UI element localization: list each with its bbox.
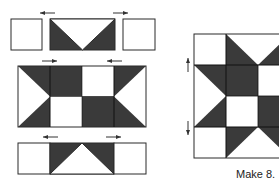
top-left-square xyxy=(11,19,42,50)
top-right-square xyxy=(123,19,155,50)
quilt-block-diagram xyxy=(0,0,279,190)
four-patch-dark xyxy=(82,97,114,128)
bottom-right-square xyxy=(114,143,146,174)
top-row xyxy=(11,13,155,50)
bottom-row xyxy=(18,137,146,174)
top-flying-geese xyxy=(50,19,115,50)
four-patch-light xyxy=(50,97,82,128)
four-patch-light xyxy=(82,66,114,97)
finished-block xyxy=(188,34,279,158)
middle-left-geese xyxy=(18,66,50,127)
middle-right-geese xyxy=(114,66,146,127)
bottom-left-square xyxy=(18,143,50,174)
bottom-flying-geese xyxy=(50,143,114,174)
middle-row xyxy=(18,61,146,127)
make-count-caption: Make 8. xyxy=(236,168,275,180)
four-patch-dark xyxy=(50,66,82,97)
